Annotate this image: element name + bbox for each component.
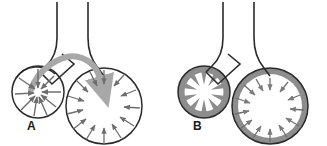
alveolar-surface-tension-figure: A B (0, 0, 327, 146)
diagram-canvas (0, 0, 327, 146)
panel-label-b: B (193, 120, 202, 132)
panel-label-a: A (27, 120, 36, 132)
